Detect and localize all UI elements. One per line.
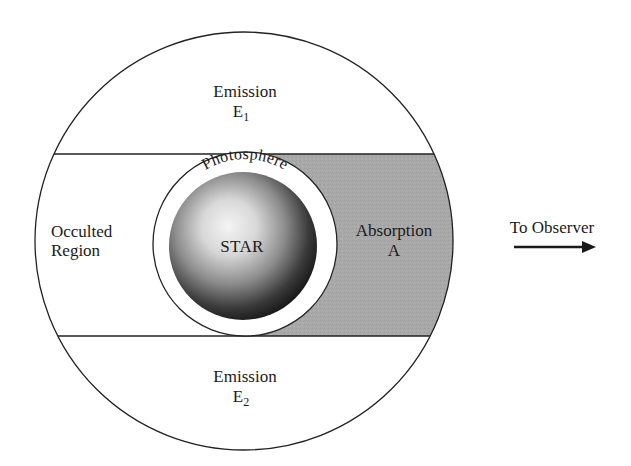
occulted-region-label: Occulted Region bbox=[51, 222, 113, 260]
emission-bottom-symbol: E2 bbox=[233, 387, 249, 409]
emission-bottom-label: Emission E2 bbox=[213, 367, 277, 409]
occulted-line2: Region bbox=[51, 241, 101, 260]
emission-top-title: Emission bbox=[213, 82, 277, 101]
emission-bottom-title: Emission bbox=[213, 367, 277, 386]
star-label: STAR bbox=[220, 237, 264, 256]
absorption-title: Absorption bbox=[356, 221, 433, 240]
stellar-envelope-diagram: Photosphere STAR Emission E1 Emission E2… bbox=[0, 0, 631, 466]
absorption-symbol: A bbox=[388, 241, 401, 260]
emission-top-symbol: E1 bbox=[233, 102, 249, 124]
emission-top-label: Emission E1 bbox=[213, 82, 277, 124]
observer-indicator: To Observer bbox=[510, 218, 596, 253]
right-arrow-icon bbox=[514, 241, 596, 253]
observer-label: To Observer bbox=[510, 218, 595, 237]
occulted-line1: Occulted bbox=[51, 222, 113, 241]
